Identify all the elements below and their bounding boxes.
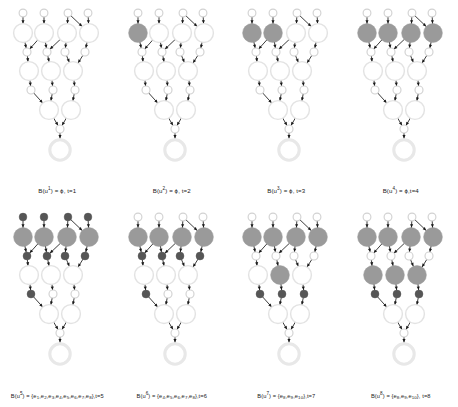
graph-svg	[115, 0, 230, 175]
caption-time-value: 6	[204, 393, 207, 399]
node-row2-0	[367, 252, 375, 260]
node-row5-1	[62, 304, 81, 323]
caption-middle: ) = {	[383, 393, 394, 399]
node-row1-0	[357, 24, 376, 43]
caption-prefix: B(u	[137, 393, 146, 399]
node-row5-1	[62, 101, 81, 120]
node-row6-0	[400, 329, 408, 337]
node-row5-1	[291, 304, 310, 323]
caption-prefix: B(u	[267, 187, 277, 194]
node-row4-1	[393, 86, 401, 94]
node-row2-2	[290, 252, 298, 260]
node-row3-0	[249, 265, 268, 284]
figure-panel-grid: B(u1) = ϕ, t=1B(u2) = ϕ, t=2B(u3) = ϕ, t…	[0, 0, 458, 407]
caption-time-value: 1	[73, 187, 77, 194]
node-row0-1	[155, 213, 163, 221]
node-row3-1	[156, 62, 175, 81]
node-row4-1	[164, 86, 172, 94]
caption-suffix: }, t=	[417, 393, 427, 399]
node-root	[50, 140, 70, 160]
node-row4-1	[278, 86, 286, 94]
graph-panel-2: B(u2) = ϕ, t=2	[115, 0, 230, 204]
caption-time-value: 8	[427, 393, 430, 399]
node-row2-3	[196, 48, 204, 56]
node-row2-1	[387, 48, 395, 56]
node-row5-1	[176, 304, 195, 323]
node-row3-1	[385, 62, 404, 81]
node-row3-0	[134, 62, 153, 81]
node-row0-2	[64, 9, 72, 17]
node-row2-1	[158, 252, 166, 260]
graph-svg	[344, 204, 458, 379]
node-row2-3	[425, 252, 433, 260]
node-row2-0	[23, 252, 31, 260]
node-row4-0	[256, 290, 264, 298]
node-row1-0	[128, 24, 147, 43]
node-row1-1	[149, 24, 168, 43]
node-root	[50, 343, 70, 363]
node-row2-0	[23, 48, 31, 56]
node-row1-1	[35, 227, 54, 246]
node-row3-1	[42, 265, 61, 284]
caption-set-item-index: 4	[59, 395, 62, 400]
caption-set-item-index: 10	[412, 395, 417, 400]
node-row2-3	[196, 252, 204, 260]
caption-set-item-index: 1	[37, 395, 40, 400]
node-row0-0	[134, 213, 142, 221]
node-row3-2	[293, 62, 312, 81]
node-row0-3	[313, 213, 321, 221]
node-row4-1	[393, 290, 401, 298]
node-root	[164, 343, 184, 363]
caption-set-item-index: 8	[283, 395, 286, 400]
node-row1-3	[80, 24, 99, 43]
caption-set-item-index: 2	[44, 395, 47, 400]
node-row4-2	[300, 86, 308, 94]
node-row3-0	[249, 62, 268, 81]
graph-svg	[115, 204, 230, 379]
node-row1-0	[243, 227, 262, 246]
node-row6-0	[171, 329, 179, 337]
node-row1-0	[128, 227, 147, 246]
caption-set-item-index: 8	[192, 395, 195, 400]
node-row5-1	[291, 101, 310, 120]
caption-time-value: 7	[312, 393, 315, 399]
caption-middle: ) = ϕ,t=	[395, 187, 415, 194]
node-row2-0	[367, 48, 375, 56]
node-row1-2	[172, 227, 191, 246]
node-row5-1	[405, 304, 424, 323]
panel-caption: B(u3) = ϕ, t=3	[229, 187, 344, 194]
node-row3-2	[178, 265, 197, 284]
node-row5-0	[269, 101, 288, 120]
caption-prefix: B(u	[38, 187, 48, 194]
node-row1-0	[14, 227, 33, 246]
node-row1-3	[80, 227, 99, 246]
node-row3-0	[20, 62, 39, 81]
node-row4-1	[49, 86, 57, 94]
node-row2-0	[252, 48, 260, 56]
node-row0-0	[19, 213, 27, 221]
node-row0-0	[248, 213, 256, 221]
node-row2-1	[158, 48, 166, 56]
node-row4-2	[415, 86, 423, 94]
caption-middle: ) = ϕ, t=	[51, 187, 73, 194]
caption-set-item-index: 5	[67, 395, 70, 400]
caption-set-item-index: 10	[298, 395, 303, 400]
node-row4-2	[415, 290, 423, 298]
caption-set-item-index: 6	[74, 395, 77, 400]
caption-time-value: 5	[100, 393, 103, 399]
node-root	[393, 343, 413, 363]
caption-prefix: B(u	[11, 393, 20, 399]
node-row0-2	[293, 213, 301, 221]
caption-set-item-index: 9	[404, 395, 407, 400]
node-row0-0	[363, 9, 371, 17]
caption-set-item-index: 4	[162, 395, 165, 400]
node-row0-2	[293, 9, 301, 17]
node-row3-0	[20, 265, 39, 284]
graph-panel-1: B(u1) = ϕ, t=1	[0, 0, 115, 204]
node-row0-3	[428, 9, 436, 17]
caption-set-item-index: 6	[177, 395, 180, 400]
node-row4-2	[186, 86, 194, 94]
node-row2-2	[405, 48, 413, 56]
node-row6-0	[285, 125, 293, 133]
node-row0-1	[384, 213, 392, 221]
